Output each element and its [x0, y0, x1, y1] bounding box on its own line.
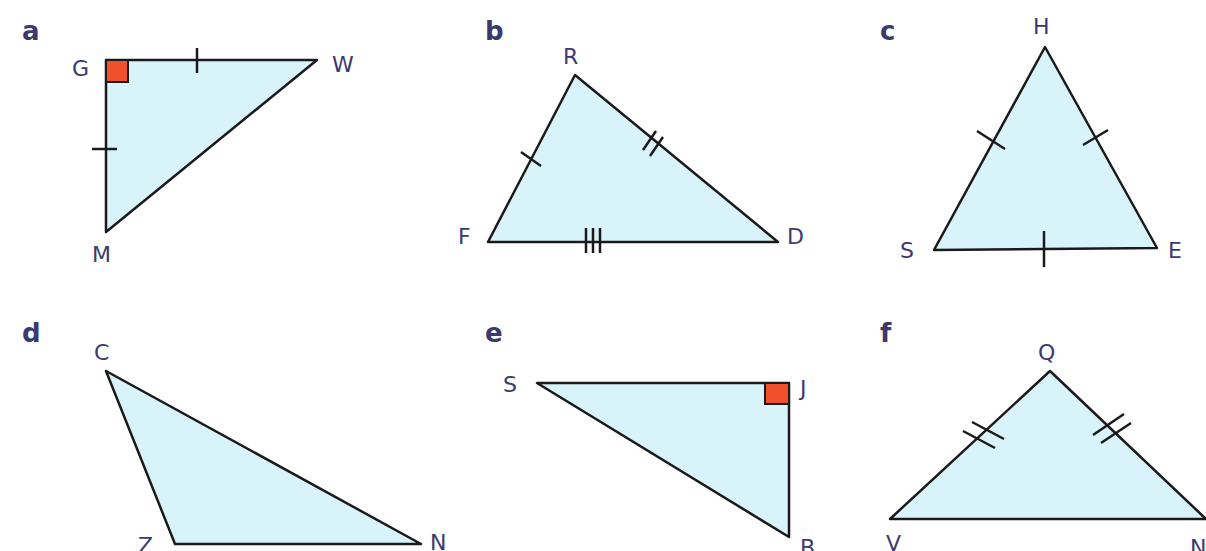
triangle-qvn: [890, 371, 1206, 519]
vertex-label-n-d: N: [430, 530, 446, 551]
vertex-label-j: J: [798, 376, 807, 401]
vertex-label-f: F: [458, 224, 471, 249]
vertex-label-b-e: B: [800, 535, 815, 551]
panel-label-e: e: [485, 318, 503, 348]
vertex-label-g: G: [72, 56, 89, 81]
vertex-label-n-f: N: [1190, 535, 1206, 551]
panel-label-c: c: [880, 16, 895, 46]
panel-a: a G W M: [22, 16, 354, 267]
triangles-figure: a G W M b R F D c H S E d C Z: [0, 0, 1206, 551]
vertex-label-h: H: [1033, 14, 1050, 39]
vertex-label-r: R: [563, 44, 578, 69]
panel-label-d: d: [22, 318, 41, 348]
vertex-label-v: V: [886, 531, 901, 551]
triangle-sjb: [537, 383, 789, 537]
panel-f: f Q V N: [880, 318, 1206, 551]
panel-e: e S J B: [485, 318, 815, 551]
triangle-hse: [934, 47, 1157, 250]
right-angle-marker-g: [106, 60, 128, 82]
vertex-label-d: D: [787, 224, 804, 249]
vertex-label-m: M: [92, 242, 111, 267]
panel-d: d C Z N: [22, 318, 446, 551]
vertex-label-c: C: [94, 340, 109, 365]
right-angle-marker-j: [765, 383, 789, 404]
panel-label-f: f: [880, 318, 892, 348]
panel-c: c H S E: [880, 14, 1182, 267]
vertex-label-z: Z: [138, 533, 153, 551]
vertex-label-q: Q: [1038, 340, 1055, 365]
vertex-label-e: E: [1168, 238, 1182, 263]
vertex-label-s-e: S: [503, 372, 517, 397]
panel-label-b: b: [485, 16, 504, 46]
vertex-label-w: W: [332, 52, 354, 77]
triangle-gwm: [106, 60, 317, 232]
panel-label-a: a: [22, 16, 40, 46]
vertex-label-s: S: [900, 238, 914, 263]
triangle-czn: [106, 371, 421, 544]
panel-b: b R F D: [458, 16, 804, 253]
